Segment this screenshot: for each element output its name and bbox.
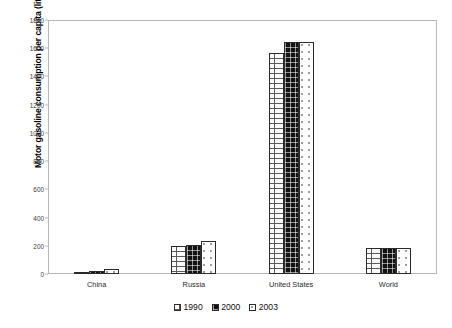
bar-group-bars — [145, 20, 242, 274]
legend-swatch-icon — [212, 304, 219, 311]
x-axis-label: China — [87, 280, 106, 289]
bar-group-bars — [48, 20, 145, 274]
bar-world-2000 — [381, 248, 396, 274]
bar-group — [340, 20, 437, 274]
y-tick-label: 0 — [0, 271, 44, 278]
y-tick-label: 1800 — [0, 17, 44, 24]
bar-russia-2000 — [186, 245, 201, 274]
y-tick-label: 1600 — [0, 45, 44, 52]
bar-group — [48, 20, 145, 274]
bar-group-bars — [243, 20, 340, 274]
legend-item-1990: 1990 — [174, 303, 203, 312]
x-axis-label: World — [379, 280, 398, 289]
y-tick-label: 400 — [0, 214, 44, 221]
bar-group-bars — [340, 20, 437, 274]
bar-world-1990 — [366, 248, 381, 274]
y-tick-label: 1200 — [0, 101, 44, 108]
y-tick-label: 800 — [0, 158, 44, 165]
legend-item-2000: 2000 — [212, 303, 241, 312]
x-axis-labels: ChinaRussiaUnited StatesWorld — [48, 280, 437, 294]
legend-swatch-icon — [249, 304, 256, 311]
bar-united-states-2003 — [299, 42, 314, 274]
chart-legend: 199020002003 — [0, 303, 452, 312]
bar-world-2003 — [396, 248, 411, 274]
bar-china-2003 — [104, 269, 119, 274]
legend-item-2003: 2003 — [249, 303, 278, 312]
y-tick-label: 1000 — [0, 129, 44, 136]
y-tick-label: 200 — [0, 242, 44, 249]
bar-chart: Motor gasoline consumption per capita (l… — [0, 0, 452, 328]
y-axis-ticks: 020040060080010001200140016001800 — [0, 20, 46, 274]
legend-label: 1990 — [184, 303, 203, 312]
legend-label: 2000 — [221, 303, 240, 312]
y-tick-label: 600 — [0, 186, 44, 193]
x-axis-label: Russia — [183, 280, 206, 289]
bar-china-2000 — [89, 271, 104, 274]
bar-united-states-2000 — [284, 42, 299, 274]
bar-united-states-1990 — [269, 53, 284, 274]
y-tick-label: 1400 — [0, 73, 44, 80]
bar-russia-1990 — [171, 246, 186, 274]
bar-group — [145, 20, 242, 274]
bar-group — [243, 20, 340, 274]
bar-russia-2003 — [201, 241, 216, 274]
legend-label: 2003 — [259, 303, 278, 312]
legend-swatch-icon — [174, 304, 181, 311]
x-axis-label: United States — [269, 280, 313, 289]
bar-china-1990 — [74, 272, 89, 274]
bar-groups — [48, 20, 437, 274]
